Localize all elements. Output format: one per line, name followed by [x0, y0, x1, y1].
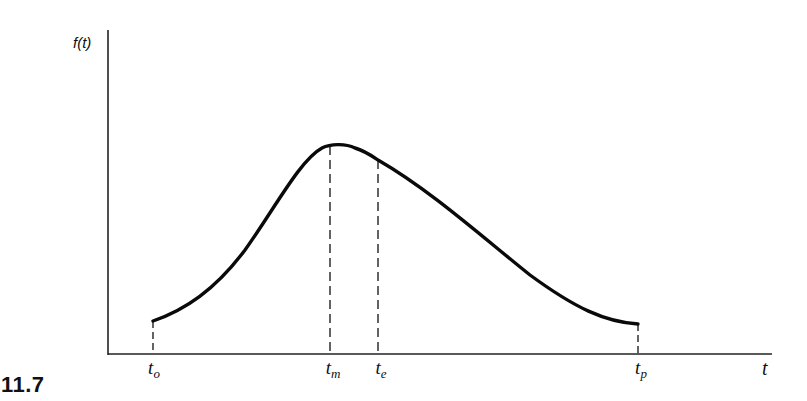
f-of-t-curve — [153, 145, 638, 324]
tick-t-o: to — [148, 357, 160, 382]
tick-t-m-sub: m — [331, 366, 340, 381]
x-axis-label: t — [762, 357, 768, 380]
tick-t-p-sub: p — [640, 366, 647, 381]
tick-t-p: tp — [635, 357, 647, 382]
tick-t-m: tm — [326, 357, 341, 382]
tick-t-e-sub: e — [381, 366, 387, 381]
tick-t-o-sub: o — [153, 366, 160, 381]
chart-canvas — [0, 0, 807, 401]
tick-t-e: te — [375, 357, 386, 382]
figure-number: 11.7 — [1, 372, 45, 398]
y-axis-label: f(t) — [73, 34, 91, 51]
